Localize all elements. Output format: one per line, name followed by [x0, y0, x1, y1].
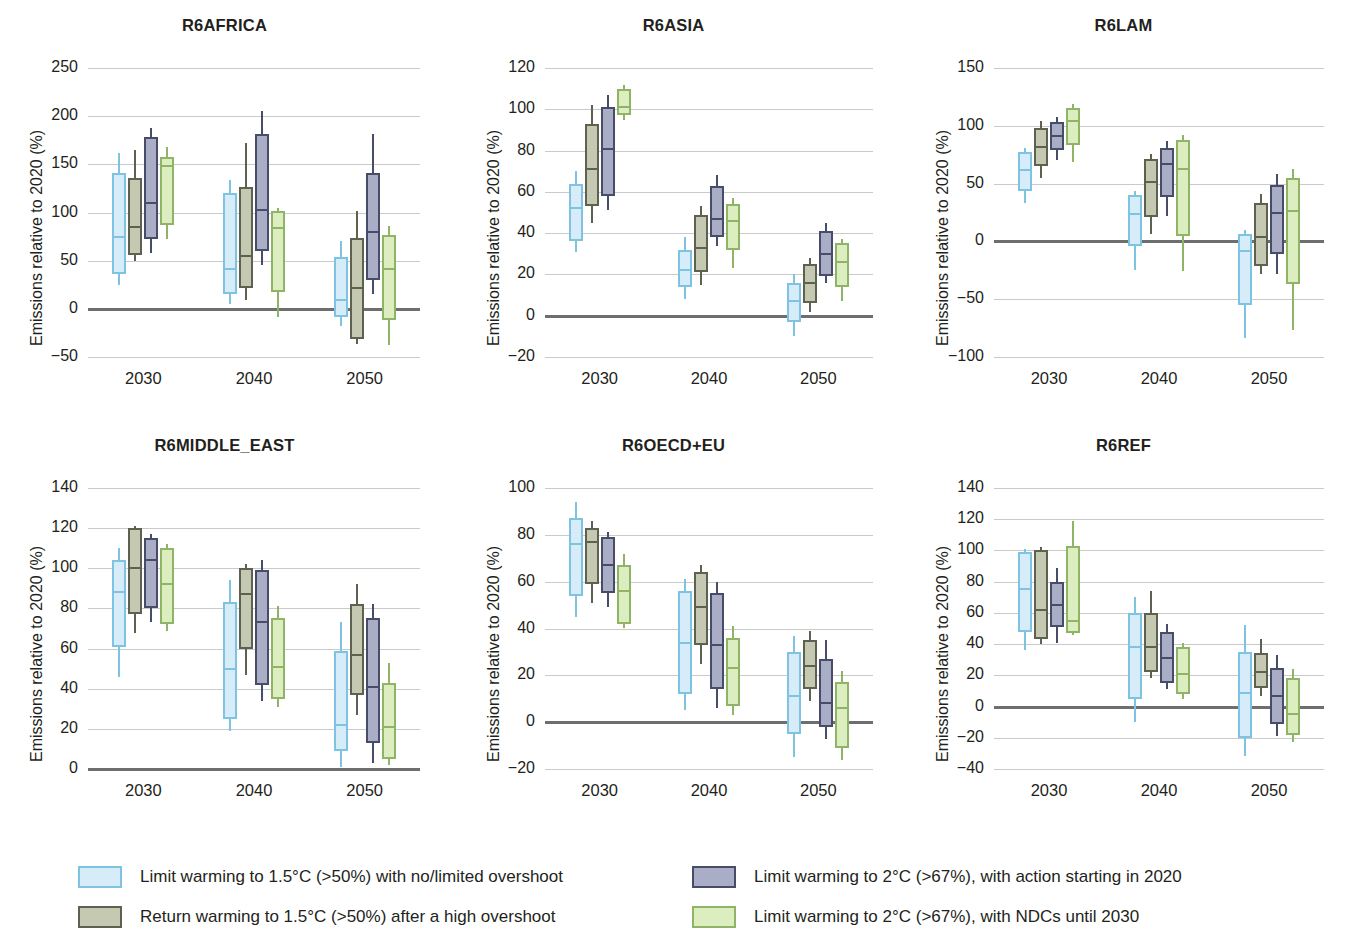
legend-item[interactable]: Return warming to 1.5°C (>50%) after a h…: [78, 906, 555, 928]
x-tick-label: 2030: [550, 369, 650, 388]
whisker-upper: [1276, 174, 1278, 184]
panel-title: R6ASIA: [449, 16, 898, 35]
box-iqr: [1286, 678, 1300, 734]
whisker-lower: [245, 649, 247, 675]
median-line: [1050, 604, 1064, 606]
gridline: [994, 738, 1324, 739]
box-iqr: [617, 565, 631, 624]
whisker-upper: [1260, 194, 1262, 203]
box-iqr: [350, 604, 364, 694]
box-iqr: [112, 560, 126, 646]
box-iqr: [710, 186, 724, 238]
chart-legend: Limit warming to 1.5°C (>50%) with no/li…: [0, 848, 1349, 949]
median-line: [1066, 620, 1080, 622]
whisker-upper: [684, 579, 686, 591]
median-line: [271, 227, 285, 229]
median-line: [569, 207, 583, 209]
box-iqr: [694, 215, 708, 273]
box-iqr: [1238, 652, 1252, 738]
whisker-lower: [1134, 699, 1136, 722]
x-tick-label: 2030: [999, 369, 1099, 388]
whisker-lower: [166, 225, 168, 239]
box-iqr: [601, 107, 615, 196]
median-line: [144, 202, 158, 204]
legend-label: Limit warming to 2°C (>67%), with action…: [754, 867, 1182, 887]
whisker-lower: [277, 292, 279, 317]
whisker-lower: [716, 237, 718, 245]
gridline: [994, 126, 1324, 127]
whisker-lower: [825, 276, 827, 282]
x-tick-label: 2030: [93, 369, 193, 388]
legend-item[interactable]: Limit warming to 2°C (>67%), with NDCs u…: [692, 906, 1139, 928]
gridline: [994, 519, 1324, 520]
whisker-upper: [150, 128, 152, 138]
median-line: [710, 644, 724, 646]
y-tick-label: 120: [898, 509, 984, 527]
whisker-lower: [1134, 246, 1136, 270]
whisker-lower: [732, 250, 734, 269]
y-tick-label: 20: [449, 665, 535, 683]
median-line: [617, 106, 631, 108]
whisker-lower: [340, 317, 342, 327]
chart-panel-r6lam: R6LAMEmissions relative to 2020 (%)−100−…: [898, 16, 1349, 417]
legend-item[interactable]: Limit warming to 1.5°C (>50%) with no/li…: [78, 866, 563, 888]
legend-swatch: [692, 906, 736, 928]
y-tick-label: 0: [0, 299, 78, 317]
y-tick-label: 120: [449, 58, 535, 76]
box-iqr: [382, 235, 396, 321]
whisker-lower: [591, 206, 593, 223]
box-iqr: [334, 257, 348, 317]
whisker-lower: [261, 685, 263, 701]
whisker-lower: [793, 322, 795, 336]
whisker-lower: [1072, 145, 1074, 161]
y-tick-label: 20: [898, 665, 984, 683]
y-tick-label: 100: [449, 478, 535, 496]
box-iqr: [1034, 550, 1048, 639]
median-line: [1144, 181, 1158, 183]
whisker-upper: [623, 554, 625, 566]
median-line: [1128, 646, 1142, 648]
x-tick-label: 2050: [768, 369, 868, 388]
box-iqr: [128, 178, 142, 255]
y-tick-label: 50: [898, 174, 984, 192]
median-line: [585, 168, 599, 170]
box-iqr: [617, 89, 631, 116]
whisker-lower: [591, 584, 593, 603]
y-tick-label: 140: [898, 478, 984, 496]
gridline: [994, 644, 1324, 645]
plot-area: [88, 68, 420, 357]
zero-line: [545, 315, 873, 318]
whisker-lower: [166, 624, 168, 630]
whisker-lower: [388, 320, 390, 345]
median-line: [255, 209, 269, 211]
median-line: [787, 695, 801, 697]
whisker-upper: [700, 206, 702, 214]
box-iqr: [726, 638, 740, 706]
legend-swatch: [692, 866, 736, 888]
whisker-upper: [134, 150, 136, 178]
whisker-lower: [1056, 627, 1058, 643]
median-line: [1254, 671, 1268, 673]
whisker-lower: [575, 596, 577, 617]
median-line: [112, 591, 126, 593]
whisker-upper: [261, 111, 263, 133]
legend-item[interactable]: Limit warming to 2°C (>67%), with action…: [692, 866, 1182, 888]
whisker-lower: [118, 274, 120, 285]
plot-area: [994, 488, 1324, 769]
box-iqr: [223, 193, 237, 294]
median-line: [366, 686, 380, 688]
x-tick-label: 2030: [550, 781, 650, 800]
box-iqr: [1128, 613, 1142, 699]
y-tick-label: −50: [898, 289, 984, 307]
box-iqr: [239, 187, 253, 287]
zero-line: [88, 768, 420, 771]
whisker-upper: [793, 274, 795, 282]
median-line: [382, 726, 396, 728]
median-line: [1176, 168, 1190, 170]
median-line: [1286, 210, 1300, 212]
box-iqr: [255, 570, 269, 684]
y-tick-label: 60: [449, 572, 535, 590]
whisker-upper: [825, 223, 827, 231]
y-tick-label: −100: [898, 347, 984, 365]
panel-title: R6AFRICA: [0, 16, 449, 35]
